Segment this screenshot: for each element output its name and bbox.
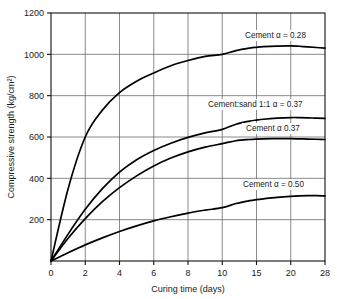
series-annotation-label-2: Cement α 0.37 (246, 124, 300, 133)
x-tick-label: 4 (117, 268, 122, 278)
series-annotation-label-0: Cement α = 0.28 (245, 31, 306, 40)
x-tick-label: 15 (251, 268, 261, 278)
y-tick-label: 800 (29, 91, 44, 101)
y-tick-label: 1000 (24, 50, 44, 60)
chart-container: 0246810152028 20040060080010001200 Cemen… (0, 0, 339, 299)
compressive-strength-line-chart: 0246810152028 20040060080010001200 Cemen… (0, 0, 339, 299)
x-tick-label: 10 (217, 268, 227, 278)
x-axis-title: Curing time (days) (151, 284, 225, 294)
y-tick-label: 400 (29, 174, 44, 184)
x-tick-label: 8 (185, 268, 190, 278)
series-annotation-label-3: Cement α = 0.50 (243, 180, 304, 189)
series-annotation-label-1: Cement:sand 1:1 α = 0.37 (208, 100, 303, 109)
x-tick-label: 20 (286, 268, 296, 278)
x-tick-label: 2 (83, 268, 88, 278)
y-axis-title: Compressive strength (kg/cm²) (6, 75, 16, 198)
x-tick-label: 0 (48, 268, 53, 278)
y-tick-label: 600 (29, 132, 44, 142)
x-tick-label: 28 (320, 268, 330, 278)
x-tick-label: 6 (151, 268, 156, 278)
y-tick-label: 200 (29, 215, 44, 225)
y-tick-label: 1200 (24, 8, 44, 18)
